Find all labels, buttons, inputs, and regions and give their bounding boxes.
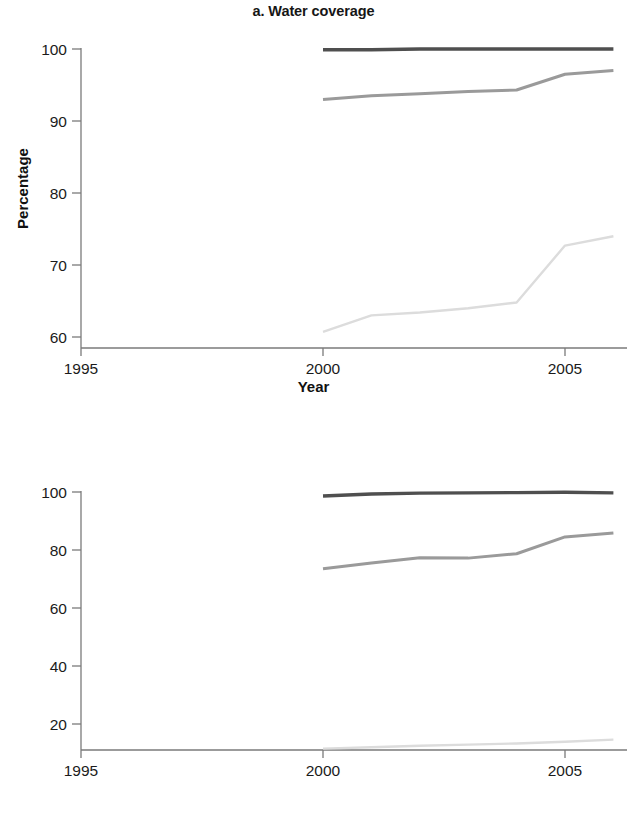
series-line-bottom <box>323 236 613 332</box>
x-tick-label: 1995 <box>64 360 98 377</box>
y-tick-label: 90 <box>50 113 68 130</box>
y-tick-label: 70 <box>50 257 68 274</box>
x-tick-label: 1995 <box>64 762 98 779</box>
series-line-top <box>323 49 613 50</box>
series-line-top <box>323 492 613 496</box>
panel-b-plot: 20406080100199520002005 <box>0 420 627 836</box>
x-tick-label: 2000 <box>306 360 341 377</box>
y-tick-label: 100 <box>41 41 67 58</box>
x-tick-label: 2005 <box>548 360 582 377</box>
y-tick-label: 60 <box>50 329 68 346</box>
series-line-middle <box>323 533 613 569</box>
panel-water-coverage: a. Water coverage Percentage Year 607080… <box>0 0 627 420</box>
series-line-bottom <box>323 740 613 749</box>
figure-two-panel-line-charts: a. Water coverage Percentage Year 607080… <box>0 0 627 836</box>
panel-sewerage-coverage: b. Sewerage coverage Percentage Year 204… <box>0 420 627 836</box>
x-tick-label: 2005 <box>548 762 582 779</box>
panel-a-plot: 60708090100199520002005 <box>0 0 627 420</box>
y-tick-label: 80 <box>50 185 68 202</box>
y-tick-label: 40 <box>50 658 68 675</box>
y-tick-label: 80 <box>50 542 68 559</box>
series-line-middle <box>323 71 613 100</box>
y-tick-label: 20 <box>50 716 68 733</box>
x-tick-label: 2000 <box>306 762 341 779</box>
y-tick-label: 100 <box>41 484 67 501</box>
y-tick-label: 60 <box>50 600 68 617</box>
